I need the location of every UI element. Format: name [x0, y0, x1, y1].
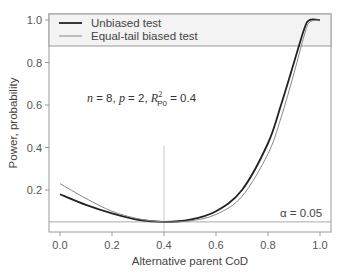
parameters-annotation: n = 8, p = 2, R2P0 = 0.4: [87, 90, 197, 108]
x-tick-label: 0.0: [52, 239, 67, 251]
x-tick-label: 0.4: [156, 239, 171, 251]
y-tick-label: 1.0: [27, 14, 42, 26]
x-tick-label: 0.2: [104, 239, 119, 251]
y-tick-label: 0.4: [27, 142, 42, 154]
y-tick-label: 0.6: [27, 99, 42, 111]
x-axis-label: Alternative parent CoD: [132, 255, 248, 267]
alpha-label: α = 0.05: [280, 207, 322, 219]
unbiased-test-curve: [60, 19, 320, 222]
y-tick-label: 0.8: [27, 57, 42, 69]
power-chart: 0.20.40.60.81.0 0.00.20.40.60.81.0 Unbia…: [0, 0, 343, 276]
y-axis: 0.20.40.60.81.0: [27, 14, 49, 196]
biased-test-curve: [60, 20, 320, 222]
x-tick-label: 1.0: [312, 239, 327, 251]
y-axis-label: Power, probability: [7, 77, 19, 168]
y-tick-label: 0.2: [27, 184, 42, 196]
x-tick-label: 0.6: [208, 239, 223, 251]
legend-biased-label: Equal-tail biased test: [91, 30, 199, 42]
plot-area: [49, 14, 331, 232]
legend-unbiased-label: Unbiased test: [91, 17, 162, 29]
x-tick-label: 0.8: [260, 239, 275, 251]
x-axis: 0.00.20.40.60.81.0: [52, 232, 327, 251]
